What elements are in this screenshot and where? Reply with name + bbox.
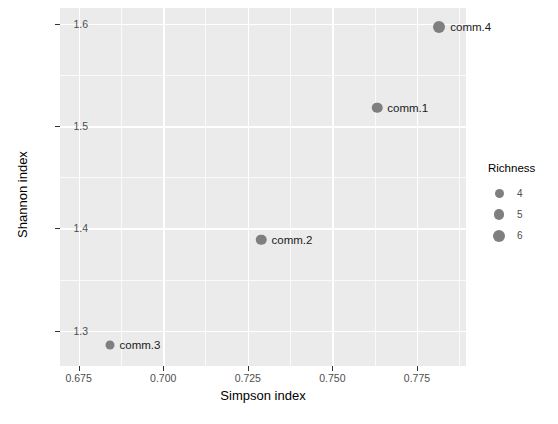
- legend-row: 6: [488, 225, 554, 246]
- legend-dot: [494, 209, 505, 220]
- x-tick-mark: [417, 366, 418, 371]
- gridline-major-vertical: [79, 8, 80, 366]
- gridline-minor-horizontal: [60, 177, 466, 178]
- gridline-minor-horizontal: [60, 280, 466, 281]
- x-tick-label: 0.675: [65, 372, 91, 384]
- y-tick-mark: [55, 228, 60, 229]
- legend-row: 5: [488, 204, 554, 225]
- x-tick-label: 0.725: [235, 372, 261, 384]
- y-tick-mark: [55, 24, 60, 25]
- legend-key: [488, 189, 510, 198]
- y-tick-mark: [55, 331, 60, 332]
- legend-dot: [495, 189, 504, 198]
- data-point: [256, 234, 267, 245]
- x-tick-mark: [163, 366, 164, 371]
- y-tick-mark: [55, 126, 60, 127]
- gridline-major-vertical: [332, 8, 333, 366]
- y-tick-label: 1.3: [73, 325, 88, 337]
- gridline-minor-vertical: [121, 8, 122, 366]
- gridline-minor-vertical: [290, 8, 291, 366]
- legend-label: 5: [517, 209, 523, 220]
- data-point-label: comm.2: [272, 234, 313, 246]
- gridline-major-vertical: [163, 8, 164, 366]
- y-axis-title: Shannon index: [15, 100, 30, 290]
- x-tick-mark: [248, 366, 249, 371]
- data-point-label: comm.3: [120, 339, 161, 351]
- y-tick-label: 1.6: [73, 18, 88, 30]
- legend-key: [488, 230, 510, 242]
- legend-row: 4: [488, 183, 554, 204]
- data-point: [433, 21, 445, 33]
- gridline-major-vertical: [248, 8, 249, 366]
- gridline-minor-vertical: [375, 8, 376, 366]
- data-point-label: comm.4: [450, 21, 491, 33]
- gridline-major-horizontal: [60, 24, 466, 25]
- gridline-major-horizontal: [60, 331, 466, 332]
- legend-label: 6: [517, 230, 523, 241]
- x-tick-label: 0.750: [319, 372, 345, 384]
- scatter-plot-figure: comm.1comm.2comm.3comm.4 1.31.41.51.60.6…: [0, 0, 558, 424]
- gridline-minor-vertical: [205, 8, 206, 366]
- data-point: [372, 102, 383, 113]
- legend-label: 4: [517, 188, 523, 199]
- legend: Richness 456: [488, 162, 554, 246]
- data-point-label: comm.1: [387, 102, 428, 114]
- legend-key: [488, 209, 510, 220]
- y-tick-label: 1.4: [73, 222, 88, 234]
- x-tick-label: 0.700: [150, 372, 176, 384]
- x-axis-title: Simpson index: [60, 388, 466, 403]
- gridline-major-horizontal: [60, 126, 466, 127]
- gridline-minor-vertical: [459, 8, 460, 366]
- gridline-minor-horizontal: [60, 75, 466, 76]
- plot-panel: [60, 8, 466, 366]
- x-tick-mark: [79, 366, 80, 371]
- legend-items: 456: [488, 183, 554, 246]
- x-tick-mark: [332, 366, 333, 371]
- y-tick-label: 1.5: [73, 120, 88, 132]
- gridline-major-horizontal: [60, 228, 466, 229]
- data-point: [106, 341, 115, 350]
- x-tick-label: 0.775: [404, 372, 430, 384]
- gridline-major-vertical: [417, 8, 418, 366]
- legend-title: Richness: [488, 162, 554, 174]
- legend-dot: [493, 230, 505, 242]
